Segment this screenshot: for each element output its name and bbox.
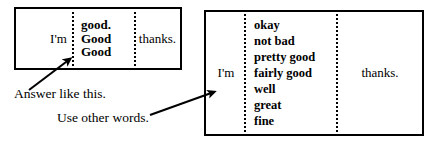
worksheet-diagram: I'm good. Good Good thanks. I'm okay not…	[0, 0, 432, 145]
alternatives-tail-cell: thanks.	[338, 12, 422, 134]
alternatives-options-list: okay not bad pretty good fairly good wel…	[254, 17, 315, 129]
list-item: well	[254, 81, 276, 97]
alternatives-tail-text: thanks.	[361, 65, 398, 81]
example-subject-cell: I'm	[16, 9, 74, 68]
list-item: okay	[254, 17, 280, 33]
alternatives-options-cell: okay not bad pretty good fairly good wel…	[246, 12, 338, 134]
list-item: pretty good	[254, 49, 315, 65]
list-item: not bad	[254, 33, 295, 49]
example-subject-text: I'm	[50, 31, 67, 47]
list-item: fine	[254, 113, 274, 129]
example-tail-text: thanks.	[139, 31, 176, 47]
caption-answer-like-this: Answer like this.	[14, 86, 106, 102]
example-answer-box: I'm good. Good Good thanks.	[14, 7, 182, 70]
alternatives-subject-cell: I'm	[206, 12, 246, 134]
example-options-list: good. Good Good	[81, 18, 111, 60]
list-item: good.	[81, 18, 111, 32]
example-options-cell: good. Good Good	[74, 9, 136, 68]
alternatives-subject-text: I'm	[218, 65, 235, 81]
caption-use-other-words: Use other words.	[57, 110, 149, 126]
list-item: Good	[81, 32, 111, 46]
example-tail-cell: thanks.	[136, 9, 180, 68]
alternatives-box: I'm okay not bad pretty good fairly good…	[204, 10, 424, 136]
list-item: great	[254, 97, 282, 113]
list-item: Good	[81, 45, 111, 59]
list-item: fairly good	[254, 65, 312, 81]
